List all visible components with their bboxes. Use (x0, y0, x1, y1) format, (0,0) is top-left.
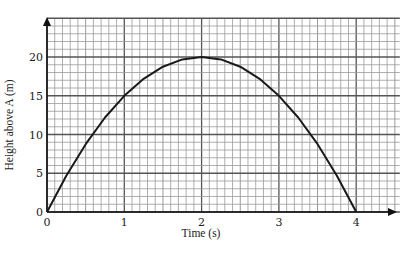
y-tick-label: 10 (29, 129, 43, 142)
x-tick-label: 3 (275, 216, 282, 229)
y-tick-label: 15 (29, 90, 43, 103)
x-tick-label: 1 (121, 216, 128, 229)
x-tick-label: 4 (353, 216, 360, 229)
y-axis-label: Height above A (m) (3, 79, 16, 170)
height-time-chart: 0123405101520 Time (s) Height above A (m… (0, 0, 414, 253)
x-axis-label: Time (s) (182, 227, 221, 240)
y-tick-label: 0 (36, 206, 43, 219)
y-tick-label: 5 (36, 167, 43, 180)
axes (43, 17, 397, 216)
x-axis-arrow-icon (388, 208, 397, 216)
grid (47, 18, 400, 212)
y-tick-label: 20 (29, 51, 43, 64)
x-tick-label: 0 (44, 216, 51, 229)
